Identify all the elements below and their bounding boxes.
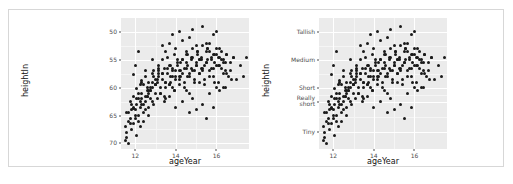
data-point [159, 92, 162, 95]
data-point [179, 61, 182, 64]
data-point [183, 81, 186, 84]
data-point [340, 111, 343, 114]
y-tick-mark [317, 87, 319, 88]
data-point [352, 92, 355, 95]
minor-gridline-horizontal [121, 129, 249, 130]
data-point [401, 64, 404, 67]
data-point [325, 142, 328, 145]
data-point [203, 78, 206, 81]
data-point [327, 117, 330, 120]
data-point [333, 134, 336, 137]
data-point [383, 67, 386, 70]
data-point [345, 106, 348, 109]
data-point [151, 100, 154, 103]
data-point [425, 75, 428, 78]
data-point [396, 81, 399, 84]
data-point [332, 64, 335, 67]
data-point [362, 97, 365, 100]
data-point [161, 72, 164, 75]
data-point [372, 47, 375, 50]
data-point [415, 81, 418, 84]
data-point [379, 58, 382, 61]
data-point [171, 67, 174, 70]
data-point [137, 114, 140, 117]
data-point [379, 72, 382, 75]
y-tick-label: Medium [271, 56, 315, 63]
data-point [124, 139, 127, 142]
data-point [371, 89, 374, 92]
data-point [125, 136, 128, 139]
x-tick-mark [216, 149, 217, 151]
data-point [205, 117, 208, 120]
y-tick-mark [317, 132, 319, 133]
data-point [164, 86, 167, 89]
data-point [410, 33, 413, 36]
data-point [169, 81, 172, 84]
data-point [342, 75, 345, 78]
data-point [185, 89, 188, 92]
data-point [217, 64, 220, 67]
data-point [440, 75, 443, 78]
data-point [427, 69, 430, 72]
gridline-horizontal [121, 143, 249, 144]
data-point [337, 106, 340, 109]
data-point [413, 30, 416, 33]
data-point [362, 50, 365, 53]
data-point [335, 120, 338, 123]
data-point [166, 56, 169, 59]
data-point [164, 81, 167, 84]
data-point [344, 86, 347, 89]
data-point [196, 53, 199, 56]
plot-panel-right: heightIn ageYear 121416TallishMediumShor… [257, 10, 505, 168]
data-point [359, 78, 362, 81]
data-point [383, 53, 386, 56]
data-point [359, 72, 362, 75]
y-axis-title-right: heightIn [262, 51, 271, 111]
data-point [154, 78, 157, 81]
x-tick-mark [373, 149, 374, 151]
data-point [369, 67, 372, 70]
x-tick-label: 16 [411, 152, 419, 159]
minor-gridline-horizontal [121, 74, 249, 75]
y-tick-label: 70 [73, 140, 117, 147]
data-point [393, 64, 396, 67]
data-point [181, 58, 184, 61]
data-point [403, 42, 406, 45]
data-point [130, 128, 133, 131]
data-point [359, 44, 362, 47]
minor-gridline-horizontal [319, 74, 447, 75]
data-point [127, 111, 130, 114]
data-point [208, 50, 211, 53]
data-point [328, 108, 331, 111]
data-point [156, 97, 159, 100]
gridline-horizontal [319, 32, 447, 33]
data-point [337, 125, 340, 128]
data-point [422, 86, 425, 89]
data-point [191, 97, 194, 100]
data-point [383, 61, 386, 64]
data-point [399, 69, 402, 72]
data-point [239, 64, 242, 67]
data-point [410, 67, 413, 70]
data-point [208, 92, 211, 95]
data-point [203, 83, 206, 86]
data-point [232, 56, 235, 59]
data-point [225, 53, 228, 56]
y-tick-mark [119, 31, 121, 32]
y-tick-mark [119, 87, 121, 88]
data-point [230, 78, 233, 81]
data-point [147, 81, 150, 84]
data-point [361, 100, 364, 103]
data-point [333, 103, 336, 106]
data-point [208, 75, 211, 78]
data-point [229, 69, 232, 72]
data-point [328, 128, 331, 131]
data-point [369, 33, 372, 36]
data-point [139, 125, 142, 128]
data-point [342, 69, 345, 72]
data-point [198, 81, 201, 84]
data-point [389, 56, 392, 59]
data-point [227, 75, 230, 78]
data-point [178, 75, 181, 78]
data-point [166, 67, 169, 70]
